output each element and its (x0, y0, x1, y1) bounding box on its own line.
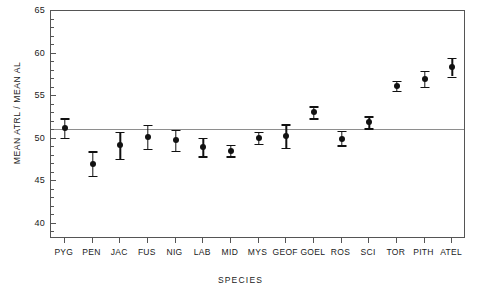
y-axis-minor-tick (50, 70, 54, 71)
x-axis-tick-label: PYG (54, 247, 73, 257)
y-axis-minor-tick (50, 36, 54, 37)
x-axis-tick (175, 238, 176, 243)
y-axis-minor-tick (50, 121, 54, 122)
x-axis-tick-label: MID (222, 247, 238, 257)
y-axis-minor-tick (50, 78, 54, 79)
y-axis-minor-tick (50, 189, 54, 190)
x-axis-tick (202, 238, 203, 243)
x-axis-tick-label: JAC (111, 247, 128, 257)
x-axis-tick (451, 238, 452, 243)
x-axis-tick (368, 238, 369, 243)
y-axis-minor-tick (50, 87, 54, 88)
y-axis-major-tick (50, 53, 56, 54)
x-axis-tick (92, 238, 93, 243)
y-axis-minor-tick (50, 61, 54, 62)
x-axis-tick-label: ROS (331, 247, 350, 257)
x-axis-tick-label: MYS (248, 247, 267, 257)
scatter-plot-figure: MEAN ATRL / MEAN AL SPECIES 404550556065… (0, 0, 481, 294)
x-axis-tick-label: GOEL (300, 247, 325, 257)
y-axis-minor-tick (50, 214, 54, 215)
y-axis-minor-tick (50, 197, 54, 198)
y-axis-major-tick (50, 10, 56, 11)
y-axis-minor-tick (50, 155, 54, 156)
y-axis-minor-tick (50, 163, 54, 164)
y-axis-minor-tick (50, 146, 54, 147)
y-axis-minor-tick (50, 206, 54, 207)
y-axis-tick-label: 40 (19, 218, 45, 228)
y-axis-major-tick (50, 95, 56, 96)
y-axis-minor-tick (50, 112, 54, 113)
x-axis-tick (147, 238, 148, 243)
y-axis-minor-tick (50, 44, 54, 45)
y-axis-major-tick (50, 180, 56, 181)
x-axis-tick-label: GEOF (273, 247, 298, 257)
x-axis-tick-label: FUS (138, 247, 156, 257)
x-axis-tick (341, 238, 342, 243)
y-axis-tick-label: 50 (19, 133, 45, 143)
x-axis-tick-label: NIG (166, 247, 182, 257)
x-axis-tick-label: TOR (386, 247, 405, 257)
y-axis-minor-tick (50, 172, 54, 173)
y-axis-minor-tick (50, 19, 54, 20)
x-axis-tick (313, 238, 314, 243)
x-axis-tick (230, 238, 231, 243)
x-axis-tick (396, 238, 397, 243)
x-axis-tick (64, 238, 65, 243)
y-axis-minor-tick (50, 104, 54, 105)
y-axis-tick-label: 65 (19, 5, 45, 15)
y-axis-tick-label: 45 (19, 175, 45, 185)
y-axis-tick-label: 60 (19, 48, 45, 58)
x-axis-tick-label: PITH (413, 247, 434, 257)
y-axis-major-tick (50, 138, 56, 139)
y-axis-minor-tick (50, 27, 54, 28)
x-axis-tick (424, 238, 425, 243)
axes-layer: 404550556065PYGPENJACFUSNIGLABMIDMYSGEOF… (0, 0, 481, 294)
x-axis-tick (119, 238, 120, 243)
y-axis-tick-label: 55 (19, 90, 45, 100)
x-axis-tick-label: LAB (194, 247, 211, 257)
x-axis-tick (258, 238, 259, 243)
x-axis-tick-label: PEN (82, 247, 100, 257)
y-axis-major-tick (50, 223, 56, 224)
x-axis-tick-label: SCI (361, 247, 376, 257)
x-axis-tick (285, 238, 286, 243)
x-axis-tick-label: ATEL (440, 247, 462, 257)
y-axis-minor-tick (50, 231, 54, 232)
y-axis-minor-tick (50, 129, 54, 130)
